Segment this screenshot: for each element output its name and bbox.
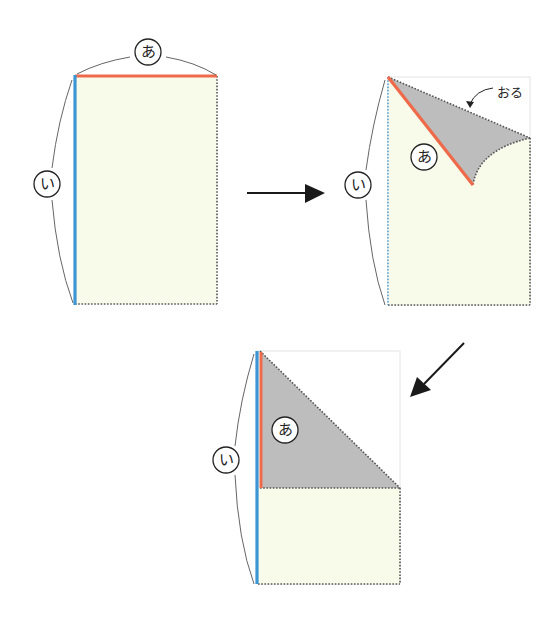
step-3-paper: あ い <box>213 351 400 584</box>
label-a: あ <box>278 421 293 439</box>
fold-label: おる <box>497 85 523 100</box>
folding-diagram: あ い おる あ い <box>0 0 560 623</box>
label-i: い <box>219 451 234 469</box>
arrow-right-icon <box>247 184 325 203</box>
label-a: あ <box>417 148 432 166</box>
step-1-paper: あ い <box>34 39 217 305</box>
label-i: い <box>351 176 366 194</box>
arrow-down-left-icon <box>410 343 464 397</box>
step-2-paper: おる あ い <box>345 77 530 305</box>
label-i: い <box>40 175 55 193</box>
label-a: あ <box>141 43 156 61</box>
